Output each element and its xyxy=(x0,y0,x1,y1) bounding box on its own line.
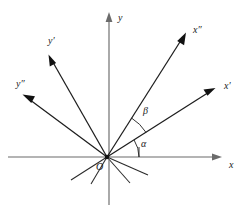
y-prime-negative-stub xyxy=(107,157,130,183)
rotated-axes-group xyxy=(23,33,216,158)
x-axis-label-text: x xyxy=(229,159,233,170)
principal-axes-group xyxy=(8,12,222,205)
x-prime-axis-label: x′ xyxy=(224,81,231,91)
alpha-angle-label: α xyxy=(141,139,146,149)
x-double-prime-axis-label: x″ xyxy=(193,25,202,35)
y-axis-label: y xyxy=(118,13,122,23)
origin-point xyxy=(105,155,109,159)
y-axis-arrowhead xyxy=(106,12,113,22)
y-double-prime-ray xyxy=(30,100,108,158)
y-prime-ray xyxy=(53,62,108,158)
x-double-prime-mark: ″ xyxy=(197,24,201,35)
x-axis-label: x xyxy=(229,160,233,170)
alpha-arc xyxy=(134,140,139,157)
y-double-prime-negative-stub xyxy=(107,157,148,175)
coordinate-axes-figure: x y x′ x″ y′ y″ α β O xyxy=(0,0,242,210)
y-prime-mark: ′ xyxy=(52,35,54,46)
y-double-prime-axis-label: y″ xyxy=(16,79,25,89)
y-prime-axis-label: y′ xyxy=(48,36,55,46)
x-axis-arrowhead xyxy=(212,154,222,161)
x-prime-ray xyxy=(107,92,210,158)
origin-label-text: O xyxy=(96,161,103,172)
beta-angle-label: β xyxy=(143,106,148,116)
y-axis-label-text: y xyxy=(118,12,122,23)
beta-angle-label-text: β xyxy=(143,105,148,116)
origin-label: O xyxy=(96,162,103,172)
alpha-angle-label-text: α xyxy=(141,138,146,149)
x-prime-mark: ′ xyxy=(228,80,230,91)
beta-arc xyxy=(132,118,147,132)
y-double-prime-mark: ″ xyxy=(20,78,24,89)
figure-canvas xyxy=(0,0,242,210)
